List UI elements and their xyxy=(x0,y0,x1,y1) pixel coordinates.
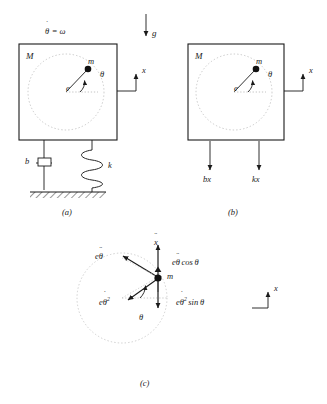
panel-b-label-theta: θ xyxy=(268,70,272,79)
panel-b-label-e: e xyxy=(234,84,238,93)
panel-b-axis-label-x: x xyxy=(309,66,313,75)
panel-c-point-mass xyxy=(154,274,161,281)
panel-c-component-arrowhead xyxy=(155,267,162,272)
panel-a-axis-label-x: x xyxy=(142,66,146,75)
panel-c-radial-arrow xyxy=(128,280,156,300)
panel-a-label-k: k xyxy=(108,161,112,170)
panel-c-label-m: m xyxy=(167,272,173,281)
panel-a-axis-x xyxy=(117,74,136,91)
panel-b-axis-x xyxy=(284,74,303,91)
panel-b xyxy=(188,44,303,170)
rotating-unbalance-figure xyxy=(0,0,327,404)
panel-a-damper xyxy=(36,140,52,190)
panel-b-label-m: m xyxy=(256,57,262,66)
panel-c-axis-label-x: x xyxy=(274,284,278,293)
panel-a-label-b: b xyxy=(25,157,29,166)
panel-c-radius-line xyxy=(122,277,158,298)
panel-a xyxy=(19,44,136,198)
gravity-label: g xyxy=(152,29,157,38)
panel-c-radial-label: e˙θ2 xyxy=(99,297,110,306)
panel-b-point-mass xyxy=(253,66,260,73)
panel-a-label-M: M xyxy=(26,52,34,61)
panel-b-angle-arc xyxy=(248,81,253,93)
panel-c-caption: (c) xyxy=(140,378,149,388)
panel-c-xddot-label: ̈x xyxy=(154,238,158,247)
panel-a-label-e: e xyxy=(66,84,70,93)
panel-c-tangential-label: ëθ xyxy=(95,252,103,261)
panel-b-spring-force-label: kx xyxy=(252,175,260,184)
panel-a-spring xyxy=(82,140,103,192)
panel-b-spring-force-var: x xyxy=(256,174,260,184)
panel-b-damping-force-label: b˙x xyxy=(203,175,211,184)
panel-c-tangential-component-label: ëθcos θ xyxy=(172,258,199,267)
panel-a-point-mass xyxy=(85,66,92,73)
panel-c-tangential-arrow xyxy=(123,256,156,276)
panel-a-rotation-rest: = ω xyxy=(52,26,66,36)
panel-a-angle-arc xyxy=(80,81,85,93)
panel-c-axis-x xyxy=(252,292,268,308)
panel-a-label-m: m xyxy=(88,57,94,66)
panel-a-caption: (a) xyxy=(62,207,72,217)
panel-b-label-M: M xyxy=(195,52,203,61)
panel-c-radial-component-label: e˙θ2sin θ xyxy=(176,297,204,306)
panel-a-label-theta: θ xyxy=(100,70,104,79)
panel-a-rotation-label: ˙θ= ω xyxy=(45,27,66,36)
panel-a-ground xyxy=(30,192,106,198)
panel-b-caption: (b) xyxy=(228,207,238,217)
panel-c-label-theta: θ xyxy=(139,313,143,322)
